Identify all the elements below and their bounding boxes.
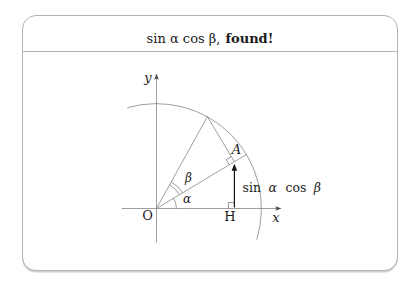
origin-label: O bbox=[142, 208, 153, 223]
alpha-angle-label: α bbox=[183, 192, 191, 206]
measure-cos: cos bbox=[285, 180, 306, 195]
geometry-diagram: y x O H A α β sin α cos β bbox=[0, 0, 419, 287]
beta-angle-arc-inner bbox=[170, 185, 180, 195]
y-axis-label: y bbox=[143, 70, 152, 85]
measure-arrow-group bbox=[232, 164, 238, 208]
measure-arrowhead-icon bbox=[232, 164, 238, 171]
foot-point-label: H bbox=[224, 209, 235, 224]
slide-canvas: sin α cos β, found! bbox=[0, 0, 419, 287]
x-axis-label: x bbox=[272, 210, 280, 225]
segment-p-to-a bbox=[207, 117, 234, 162]
beta-angle-label: β bbox=[184, 171, 192, 185]
measure-sin: sin bbox=[243, 180, 261, 195]
vertex-point-label: A bbox=[231, 142, 241, 157]
measure-expression-label: sin α cos β bbox=[243, 180, 322, 195]
measure-beta: β bbox=[313, 180, 321, 195]
ray-alpha-plus-beta bbox=[157, 117, 208, 209]
ray-alpha bbox=[157, 154, 247, 208]
alpha-angle-arc bbox=[174, 198, 177, 208]
measure-alpha: α bbox=[268, 180, 277, 195]
